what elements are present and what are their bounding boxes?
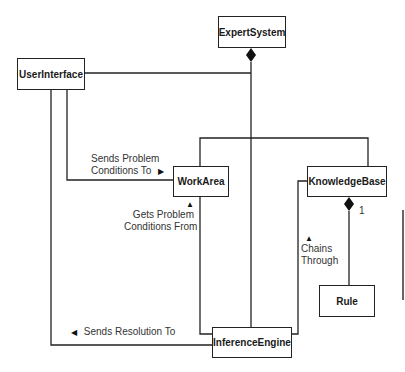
class-work-area: WorkArea: [173, 166, 229, 197]
label-chains-through-line2: Through: [301, 255, 338, 267]
label-gets-problem: ▲ Gets Problem Conditions From: [124, 200, 194, 233]
label-sends-problem-line2: Conditions To ▶: [91, 165, 164, 178]
class-rule: Rule: [319, 285, 375, 317]
direction-right-icon: ▶: [158, 167, 164, 176]
direction-up-icon: ▲: [301, 234, 338, 243]
label-chains-through: ▲ Chains Through: [301, 234, 338, 267]
composition-diamond-expertsystem: [246, 48, 256, 62]
label-sends-resolution-text: Sends Resolution To: [84, 326, 176, 337]
label-sends-problem-line1: Sends Problem: [91, 153, 164, 165]
margin-bar: [402, 210, 404, 300]
label-sends-resolution: ◀ Sends Resolution To: [71, 326, 175, 339]
label-sends-problem-text2: Conditions To: [91, 165, 151, 176]
label-sends-problem: Sends Problem Conditions To ▶: [91, 153, 164, 178]
class-inference-engine: InferenceEngine: [212, 327, 292, 358]
label-chains-through-line1: Chains: [301, 243, 338, 255]
direction-left-icon: ◀: [71, 328, 77, 337]
class-user-interface: UserInterface: [17, 58, 85, 90]
class-expert-system: ExpertSystem: [218, 16, 286, 48]
label-gets-problem-line2: Conditions From: [124, 221, 194, 233]
label-gets-problem-line1: Gets Problem: [124, 209, 194, 221]
multiplicity-label: 1: [359, 205, 365, 217]
composition-diamond-knowledgebase: [344, 197, 354, 211]
class-knowledge-base: KnowledgeBase: [307, 166, 387, 197]
direction-up-icon: ▲: [124, 200, 194, 209]
